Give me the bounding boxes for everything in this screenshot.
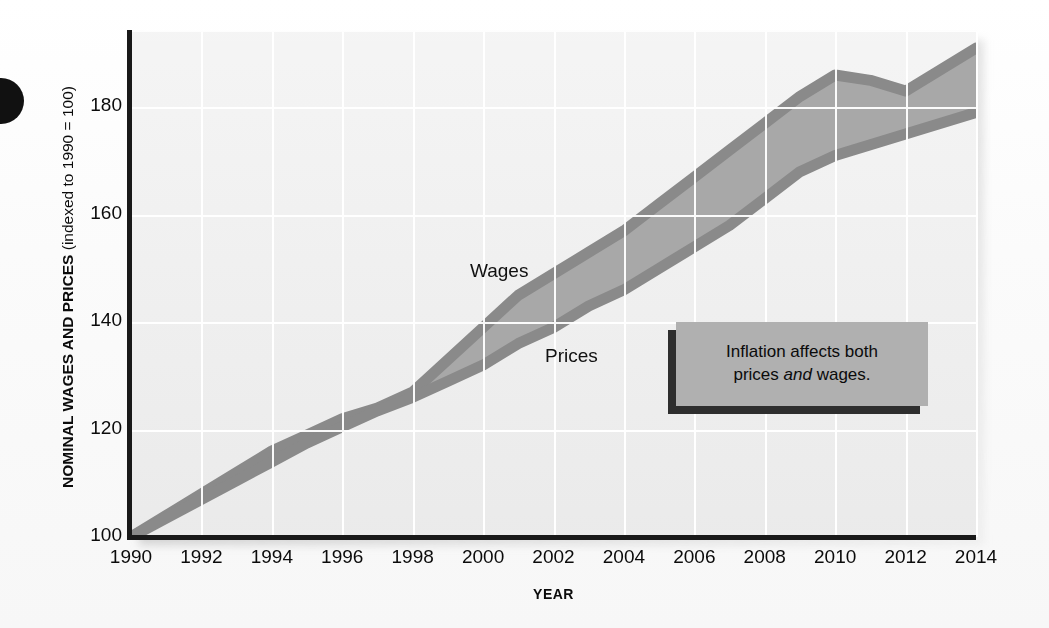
y-axis-title-regular: (indexed to 1990 = 100) xyxy=(59,86,76,250)
x-tick-label: 2002 xyxy=(514,546,594,568)
data-bands xyxy=(131,32,976,537)
x-tick-label: 2010 xyxy=(795,546,875,568)
x-axis-line xyxy=(127,535,976,540)
y-tick-label: 180 xyxy=(78,94,122,116)
callout-emphasis: and xyxy=(784,365,812,384)
callout-line-2-post: wages. xyxy=(812,365,871,384)
chart-figure: the price level rises, the purchasing po… xyxy=(0,0,1049,628)
y-axis-line xyxy=(127,30,132,539)
y-axis-title-bold: NOMINAL WAGES AND PRICES xyxy=(59,255,76,488)
callout-box: Inflation affects both prices and wages. xyxy=(676,322,928,406)
x-tick-label: 2004 xyxy=(584,546,664,568)
callout-text: Inflation affects both prices and wages. xyxy=(716,341,888,387)
series-label-wages: Wages xyxy=(470,260,528,282)
x-tick-label: 1998 xyxy=(373,546,453,568)
y-tick-label: 140 xyxy=(78,309,122,331)
y-tick-label: 100 xyxy=(78,524,122,546)
callout-line-2-pre: prices xyxy=(733,365,783,384)
x-tick-label: 1990 xyxy=(91,546,171,568)
x-tick-label: 1994 xyxy=(232,546,312,568)
x-tick-label: 2000 xyxy=(443,546,523,568)
x-tick-label: 2006 xyxy=(654,546,734,568)
x-tick-label: 1992 xyxy=(161,546,241,568)
x-tick-label: 2012 xyxy=(866,546,946,568)
x-axis-title: YEAR xyxy=(131,586,976,602)
series-label-prices: Prices xyxy=(545,345,598,367)
x-tick-label: 2008 xyxy=(725,546,805,568)
callout-line-1: Inflation affects both xyxy=(726,342,878,361)
x-tick-label: 2014 xyxy=(936,546,1016,568)
y-axis-title: NOMINAL WAGES AND PRICES (indexed to 199… xyxy=(59,52,77,522)
y-tick-label: 160 xyxy=(78,202,122,224)
x-tick-label: 1996 xyxy=(302,546,382,568)
y-tick-label: 120 xyxy=(78,417,122,439)
gridline-vertical xyxy=(976,32,978,537)
